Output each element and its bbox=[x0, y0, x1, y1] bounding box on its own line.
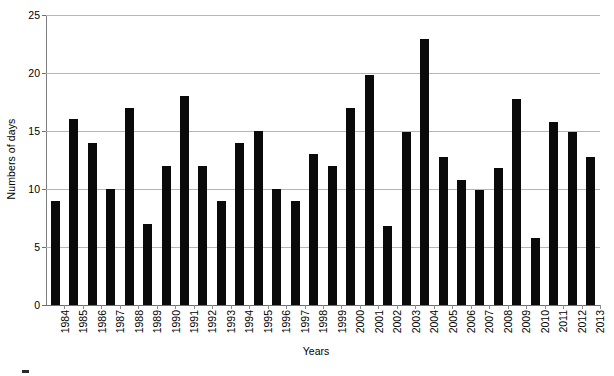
x-tick-label: 2008 bbox=[503, 310, 514, 333]
x-tick-label: 1989 bbox=[152, 310, 163, 333]
bar bbox=[586, 157, 595, 305]
y-tick-mark bbox=[42, 189, 46, 190]
x-tick-label: 2012 bbox=[577, 310, 588, 333]
x-tick-label: 2011 bbox=[558, 310, 569, 333]
bar bbox=[365, 75, 374, 305]
x-tick-label: 2002 bbox=[392, 310, 403, 333]
bar bbox=[309, 154, 318, 305]
bar bbox=[217, 201, 226, 305]
x-tick-label: 2010 bbox=[540, 310, 551, 333]
bar bbox=[439, 157, 448, 305]
x-tick-label: 1994 bbox=[244, 310, 255, 333]
x-tick-label: 2003 bbox=[411, 310, 422, 333]
bar bbox=[402, 132, 411, 305]
bar bbox=[180, 96, 189, 305]
x-tick-label: 2013 bbox=[595, 310, 606, 333]
x-tick-label: 2000 bbox=[355, 310, 366, 333]
gridline bbox=[46, 73, 600, 74]
bar bbox=[568, 132, 577, 305]
x-tick-mark bbox=[600, 305, 601, 309]
x-axis-tick-labels: 1984198519861987198819891990199119921993… bbox=[46, 306, 600, 344]
x-tick-label: 1984 bbox=[60, 310, 71, 333]
y-axis-title-text: Numbers of days bbox=[5, 119, 17, 200]
x-tick-label: 2009 bbox=[521, 310, 532, 333]
x-tick-label: 2007 bbox=[484, 310, 495, 333]
bar bbox=[272, 189, 281, 305]
x-tick-label: 1987 bbox=[115, 310, 126, 333]
x-tick-label: 1996 bbox=[281, 310, 292, 333]
bar bbox=[88, 143, 97, 305]
bar bbox=[106, 189, 115, 305]
y-tick-mark bbox=[42, 247, 46, 248]
x-tick-label: 1991 bbox=[189, 310, 200, 333]
y-tick-label: 15 bbox=[28, 126, 40, 137]
x-tick-label: 2005 bbox=[448, 310, 459, 333]
x-tick-label: 1988 bbox=[134, 310, 145, 333]
gridline bbox=[46, 15, 600, 16]
bar bbox=[420, 39, 429, 305]
bar bbox=[475, 190, 484, 305]
bar bbox=[531, 238, 540, 305]
x-tick-label: 1992 bbox=[207, 310, 218, 333]
x-tick-label: 2001 bbox=[374, 310, 385, 333]
x-tick-label: 2004 bbox=[429, 310, 440, 333]
y-axis-line bbox=[46, 15, 47, 306]
x-tick-label: 2006 bbox=[466, 310, 477, 333]
y-tick-label: 5 bbox=[34, 242, 40, 253]
bar bbox=[125, 108, 134, 305]
bar bbox=[346, 108, 355, 305]
bar bbox=[457, 180, 466, 305]
caption-legend-swatch bbox=[22, 370, 29, 373]
x-tick-label: 1993 bbox=[226, 310, 237, 333]
bar bbox=[549, 122, 558, 305]
x-tick-label: 1999 bbox=[337, 310, 348, 333]
bar bbox=[143, 224, 152, 305]
bar bbox=[69, 119, 78, 305]
x-axis-title-text: Years bbox=[303, 345, 329, 357]
x-axis-title: Years bbox=[0, 345, 614, 357]
bar bbox=[291, 201, 300, 305]
y-axis-title: Numbers of days bbox=[0, 0, 22, 318]
bar bbox=[383, 226, 392, 305]
y-tick-mark bbox=[42, 131, 46, 132]
x-tick-label: 1985 bbox=[78, 310, 89, 333]
bar-chart-figure: Numbers of days 0510152025 1984198519861… bbox=[0, 0, 614, 376]
y-tick-label: 25 bbox=[28, 10, 40, 21]
x-tick-label: 1990 bbox=[171, 310, 182, 333]
y-tick-label: 0 bbox=[34, 300, 40, 311]
bar bbox=[198, 166, 207, 305]
bar bbox=[328, 166, 337, 305]
figure-caption bbox=[22, 366, 614, 375]
bar bbox=[254, 131, 263, 305]
x-tick-label: 1997 bbox=[300, 310, 311, 333]
plot-area: 0510152025 bbox=[46, 15, 600, 305]
y-tick-label: 10 bbox=[28, 184, 40, 195]
y-tick-mark bbox=[42, 15, 46, 16]
bar bbox=[162, 166, 171, 305]
bar bbox=[494, 168, 503, 305]
x-tick-label: 1995 bbox=[263, 310, 274, 333]
bar bbox=[512, 99, 521, 305]
x-tick-label: 1986 bbox=[97, 310, 108, 333]
x-tick-label: 1998 bbox=[318, 310, 329, 333]
y-tick-label: 20 bbox=[28, 68, 40, 79]
bar bbox=[51, 201, 60, 305]
bar bbox=[235, 143, 244, 305]
y-tick-mark bbox=[42, 73, 46, 74]
